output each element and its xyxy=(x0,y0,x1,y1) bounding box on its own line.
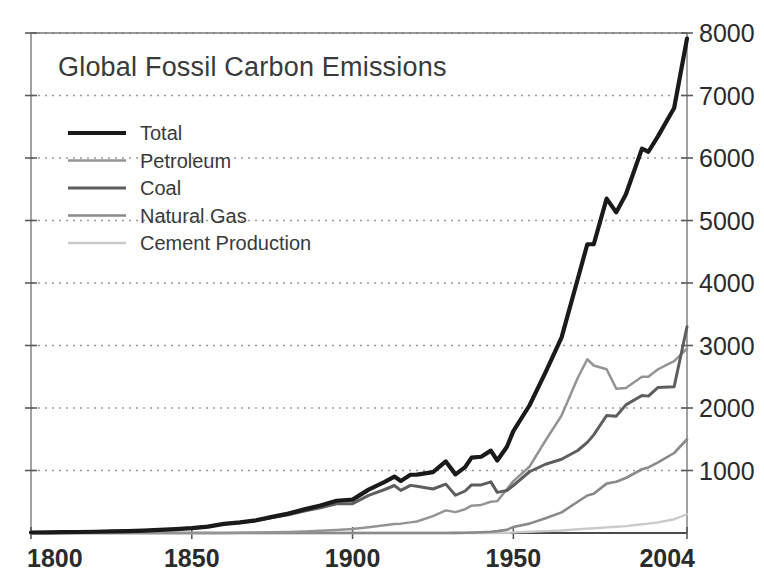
y-tick-label: 6000 xyxy=(699,144,755,172)
y-tick-label: 2000 xyxy=(699,394,755,422)
chart-container: 10002000300040005000600070008000 1800185… xyxy=(0,0,764,587)
y-tick-label: 8000 xyxy=(699,19,755,47)
y-tick-label: 4000 xyxy=(699,269,755,297)
y-tick-label: 3000 xyxy=(699,332,755,360)
y-tick-label: 1000 xyxy=(699,457,755,485)
chart-title: Global Fossil Carbon Emissions xyxy=(58,52,447,82)
x-tick-label: 1850 xyxy=(164,544,220,572)
y-tick-label: 7000 xyxy=(699,82,755,110)
x-tick-label: 2004 xyxy=(639,544,695,572)
x-tick-label: 1900 xyxy=(325,544,381,572)
legend-label-coal: Coal xyxy=(140,177,181,199)
legend-label-total: Total xyxy=(140,122,182,144)
x-tick-label: 1800 xyxy=(27,544,83,572)
y-tick-label: 5000 xyxy=(699,207,755,235)
chart-background xyxy=(0,0,764,587)
legend-label-natural-gas: Natural Gas xyxy=(140,205,247,227)
legend-label-petroleum: Petroleum xyxy=(140,150,231,172)
fossil-carbon-emissions-chart: 10002000300040005000600070008000 1800185… xyxy=(0,0,764,587)
legend-label-cement-production: Cement Production xyxy=(140,232,311,254)
x-tick-label: 1950 xyxy=(486,544,542,572)
